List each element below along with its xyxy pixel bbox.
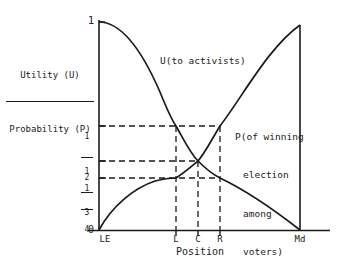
x-tick-label-le: LE (94, 234, 116, 244)
y-tick-label-one: 1 (80, 15, 94, 26)
y-axis-label-rule (6, 101, 94, 102)
probability-curve-label: P(of winning election among voters) (235, 105, 304, 260)
probability-curve-label-line4: voters) (235, 246, 304, 259)
x-axis-title: Position (160, 246, 240, 257)
probability-curve-label-line3: among (235, 208, 304, 221)
x-tick-label-r: R (209, 234, 231, 244)
y-tick-label-zero: 0 (80, 224, 94, 235)
x-tick-label-l: L (165, 234, 187, 244)
one-half-numerator: 1 (80, 133, 94, 141)
utility-curve-label: U(to activists) (160, 56, 246, 67)
y-tick-label-one-quarter: 1 4 (80, 169, 94, 250)
probability-curve-label-line1: P(of winning (235, 131, 304, 144)
one-quarter-numerator: 1 (80, 185, 94, 193)
one-quarter-rule (81, 209, 93, 210)
chart-figure: Utility (U) Probability (P) 1 1 2 1 3 1 … (0, 0, 338, 260)
x-tick-label-c: C (187, 234, 209, 244)
y-axis-label-numerator: Utility (U) (6, 70, 94, 81)
probability-curve-label-line2: election (235, 169, 304, 182)
